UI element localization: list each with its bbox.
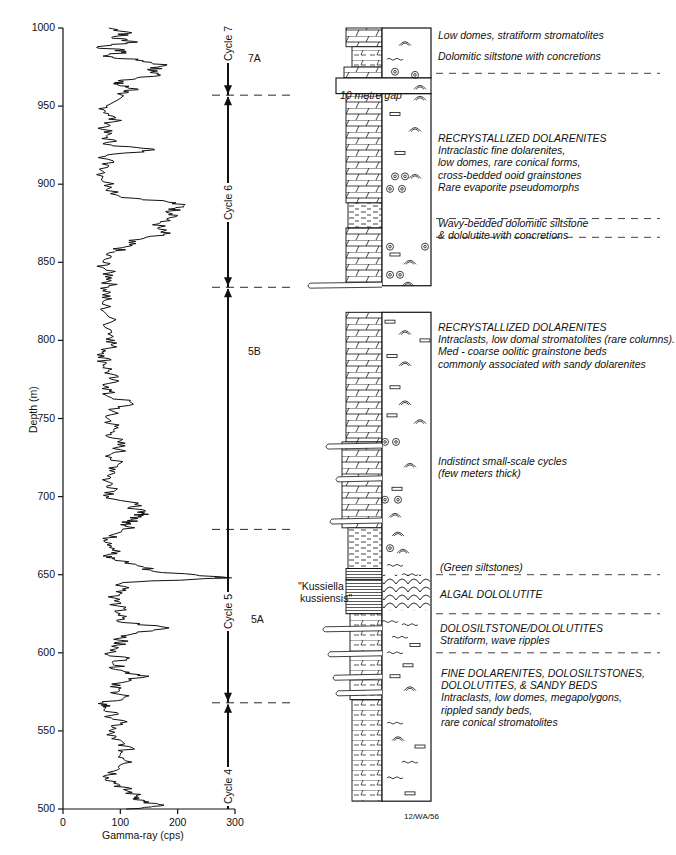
description-recrystallized-dolarenites-lower: RECRYSTALLIZED DOLARENITES Intraclasts, … xyxy=(438,321,675,370)
sandy-bed-tongue xyxy=(326,443,382,449)
y-tick-label: 900 xyxy=(15,177,55,189)
stratigraphic-log-figure: 5005506006507007508008509009501000 01002… xyxy=(0,0,676,855)
lithology-unit xyxy=(346,28,382,47)
lithology-unit xyxy=(346,568,382,579)
arrow-up-icon xyxy=(224,704,232,713)
figure-id-label: 12/WA/56 xyxy=(404,812,439,821)
lithology-unit xyxy=(352,700,382,802)
sandy-bed-tongue xyxy=(333,674,382,680)
lithology-unit xyxy=(346,312,382,442)
description-recrystallized-dolarenites-upper: RECRYSTALLIZED DOLARENITES Intraclastic … xyxy=(438,132,607,193)
y-tick-label: 550 xyxy=(15,724,55,736)
x-tick-label: 300 xyxy=(215,816,255,828)
y-axis-label: Depth (m) xyxy=(27,386,39,433)
symbol-column xyxy=(382,312,431,801)
description-fine-dolarenites: FINE DOLARENITES, DOLOSILTSTONES, DOLOLU… xyxy=(441,667,645,728)
description-algal-dololutite: ALGAL DOLOLUTITE xyxy=(440,588,543,600)
sandy-bed-tongue xyxy=(308,282,382,288)
fossil-label-line1: "Kussiella xyxy=(298,580,344,592)
algal-dome-symbols xyxy=(383,575,430,611)
sandy-bed-tongue xyxy=(323,626,382,632)
subunit-5a-label: 5A xyxy=(251,613,264,625)
cycle-7-label: Cycle 7 xyxy=(222,24,234,63)
y-tick-label: 1000 xyxy=(15,21,55,33)
sandy-bed-tongue xyxy=(336,690,382,696)
symbol-column xyxy=(382,28,431,78)
x-axis-label: Gamma-ray (cps) xyxy=(102,829,184,841)
x-tick-label: 0 xyxy=(43,816,83,828)
description-low-domes: Low domes, stratiform stromatolites xyxy=(438,29,604,41)
description-dolomitic-siltstone: Dolomitic siltstone with concretions xyxy=(438,50,601,62)
lithology-unit xyxy=(352,47,382,67)
description-small-scale-cycles: Indistinct small-scale cycles (few meter… xyxy=(438,455,567,479)
lithology-unit xyxy=(342,442,382,528)
y-tick-label: 600 xyxy=(15,646,55,658)
arrow-up-icon xyxy=(224,288,232,297)
lithology-unit xyxy=(346,228,382,286)
description-wavy-bedded: Wavy-bedded dolomitic siltstone & dololu… xyxy=(438,217,588,241)
y-tick-label: 800 xyxy=(15,333,55,345)
y-tick-label: 950 xyxy=(15,99,55,111)
cycle-arrows xyxy=(212,30,290,809)
y-tick-label: 850 xyxy=(15,255,55,267)
y-tick-label: 500 xyxy=(15,802,55,814)
gap-label: 10 metre gap xyxy=(340,89,402,101)
lithology-unit xyxy=(348,528,382,569)
lithology-unit xyxy=(348,203,382,228)
axes xyxy=(58,28,235,814)
arrow-down-icon xyxy=(224,85,232,94)
arrow-up-icon xyxy=(224,96,232,105)
x-tick-label: 200 xyxy=(158,816,198,828)
sandy-bed-tongue xyxy=(330,518,382,524)
sandy-bed-tongue xyxy=(328,651,382,657)
x-tick-label: 100 xyxy=(100,816,140,828)
arrow-down-icon xyxy=(224,277,232,286)
lithology-unit xyxy=(344,67,382,78)
description-dolosiltstone: DOLOSILTSTONE/DOLOLUTITES Stratiform, wa… xyxy=(440,622,603,646)
sandy-bed-tongue xyxy=(336,476,382,482)
fossil-label-line2: kussiensis" xyxy=(300,592,352,604)
subunit-7a-label: 7A xyxy=(248,52,261,64)
y-tick-label: 700 xyxy=(15,490,55,502)
subunit-5b-label: 5B xyxy=(248,345,261,357)
arrow-down-icon xyxy=(224,693,232,702)
lithology-unit xyxy=(346,94,382,203)
y-tick-label: 650 xyxy=(15,568,55,580)
description-green-siltstones: (Green siltstones) xyxy=(440,561,523,573)
cycle-6-label: Cycle 6 xyxy=(222,183,234,222)
gamma-ray-trace xyxy=(97,28,230,809)
cycle-5-label: Cycle 5 xyxy=(222,592,234,631)
cycle-4-label: Cycle 4 xyxy=(222,767,234,806)
